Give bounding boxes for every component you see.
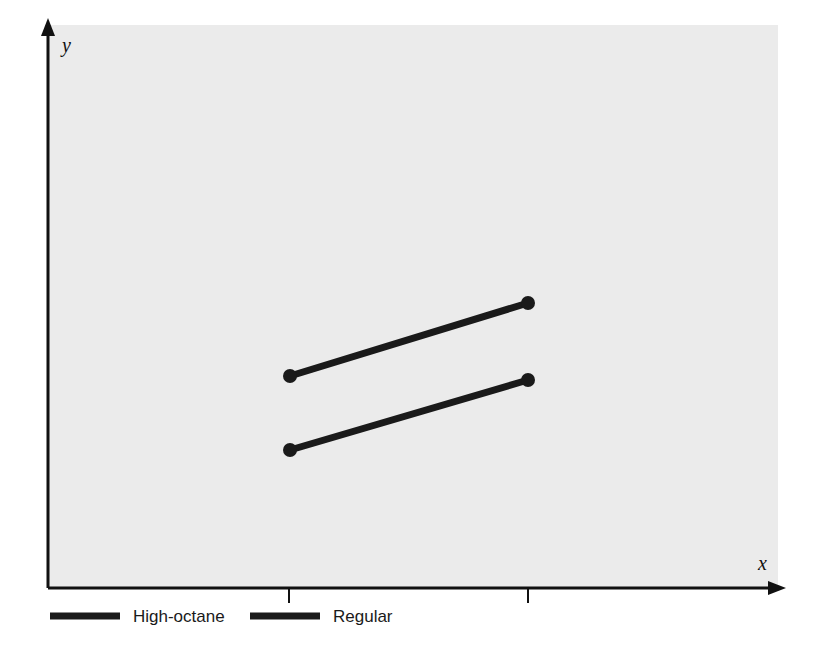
data-point-high-octane-1: [283, 369, 297, 383]
interaction-plot: y x High-octane Regular: [0, 0, 820, 645]
legend-label-regular: Regular: [333, 607, 393, 626]
x-axis-label: x: [757, 552, 767, 574]
data-point-regular-2: [521, 373, 535, 387]
data-point-regular-1: [283, 443, 297, 457]
chart-figure: y x High-octane Regular: [0, 0, 820, 645]
plot-panel: [48, 25, 778, 588]
legend-label-high-octane: High-octane: [133, 607, 225, 626]
y-axis-label: y: [60, 34, 71, 57]
data-point-high-octane-2: [521, 296, 535, 310]
